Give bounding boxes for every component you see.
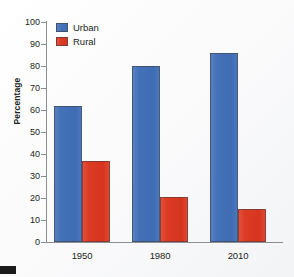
chart-legend: UrbanRural (56, 21, 99, 49)
legend-swatch-rural (56, 37, 68, 46)
y-axis-tick-label: 40 (0, 150, 40, 159)
legend-item-rural[interactable]: Rural (56, 35, 99, 48)
y-axis-tick-label: 100 (0, 18, 40, 27)
y-axis-tick-label: 50 (0, 128, 40, 137)
y-axis-tick-label: 70 (0, 84, 40, 93)
x-axis-line (46, 242, 283, 243)
y-axis-tick-label: 20 (0, 194, 40, 203)
legend-label: Urban (73, 23, 99, 33)
bar-rural-1980 (160, 197, 188, 242)
legend-swatch-urban (56, 23, 68, 32)
bar-urban-1980 (132, 66, 160, 242)
bar-urban-2010 (210, 53, 238, 242)
x-axis-tick-label-1950: 1950 (52, 250, 112, 261)
plot-area (47, 22, 281, 242)
y-axis-tick-label: 30 (0, 172, 40, 181)
scan-artifact (0, 266, 16, 274)
legend-item-urban[interactable]: Urban (56, 21, 99, 34)
y-axis-tick-label: 0 (0, 238, 40, 247)
bar-rural-1950 (82, 161, 110, 242)
legend-label: Rural (73, 37, 96, 47)
x-axis-tick-label-2010: 2010 (208, 250, 268, 261)
bar-chart-figure: Percentage 0102030405060708090100 195019… (0, 0, 294, 277)
bar-rural-2010 (238, 209, 266, 242)
y-axis-tick-label: 80 (0, 62, 40, 71)
y-axis-tick-label: 10 (0, 216, 40, 225)
x-axis-tick-label-1980: 1980 (130, 250, 190, 261)
bar-urban-1950 (54, 106, 82, 242)
y-axis-tick-label: 90 (0, 40, 40, 49)
y-axis-tick-label: 60 (0, 106, 40, 115)
